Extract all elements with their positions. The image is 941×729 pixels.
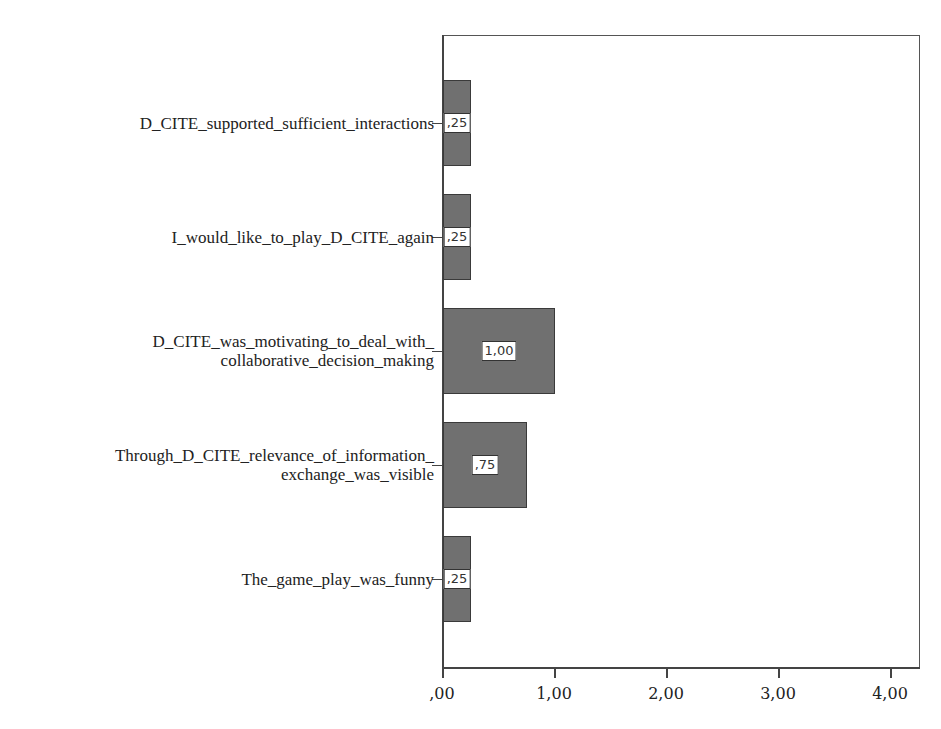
x-axis-tick bbox=[554, 668, 556, 678]
x-axis-tick bbox=[890, 668, 892, 678]
x-axis-tick-label: ,00 bbox=[429, 684, 454, 703]
x-axis-tick-label: 2,00 bbox=[648, 684, 684, 703]
x-axis-tick bbox=[666, 668, 668, 678]
category-label: I_would_like_to_play_D_CITE_again bbox=[171, 228, 434, 247]
x-axis-tick-label: 4,00 bbox=[872, 684, 908, 703]
category-label: D_CITE_was_motivating_to_deal_with_ coll… bbox=[153, 332, 434, 370]
x-axis-tick-label: 3,00 bbox=[760, 684, 796, 703]
x-axis-tick bbox=[778, 668, 780, 678]
x-axis-line bbox=[442, 667, 920, 669]
x-axis-tick-label: 1,00 bbox=[536, 684, 572, 703]
category-label: The_game_play_was_funny bbox=[241, 570, 434, 589]
bar-value-label: 1,00 bbox=[482, 341, 517, 361]
bar-value-label: ,75 bbox=[472, 455, 499, 475]
x-axis-tick bbox=[442, 668, 444, 678]
category-label: D_CITE_supported_sufficient_interactions bbox=[140, 114, 434, 133]
bar-value-label: ,25 bbox=[444, 113, 471, 133]
bar-value-label: ,25 bbox=[444, 227, 471, 247]
bar-value-label: ,25 bbox=[444, 569, 471, 589]
category-label: Through_D_CITE_relevance_of_information_… bbox=[115, 446, 434, 484]
